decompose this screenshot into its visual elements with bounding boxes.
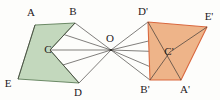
vertex-label-e: E [5,77,12,89]
ray-o-b-prime [111,50,150,80]
vertex-label-d-prime: D' [138,5,148,17]
vertex-label-c: C [44,43,51,55]
center-label-o: O [106,32,114,44]
vertex-label-a-prime: A' [180,83,190,95]
vertex-label-b: B [69,5,76,17]
center-point-group [110,49,112,51]
vertex-label-c-prime: C' [164,45,173,57]
vertex-label-e-prime: E' [205,10,214,22]
figure-canvas: ABCDED'E'C'A'B'O [0,0,220,100]
center-point-marker [110,49,112,51]
vertex-label-b-prime: B' [140,83,149,95]
image-polygon-group [148,22,207,80]
vertex-label-a: A [27,6,35,18]
image-pentagon-shape [148,22,207,80]
vertex-label-d: D [74,86,82,98]
geometry-figure: ABCDED'E'C'A'B'O [0,0,220,100]
